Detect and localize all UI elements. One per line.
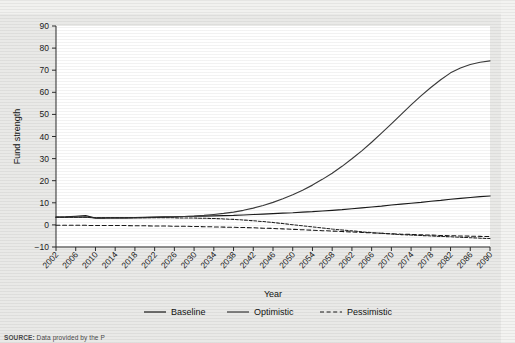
source-note: SOURCE: Data provided by the P	[4, 334, 105, 341]
y-axis-title: Fund strength	[12, 109, 22, 165]
y-tick-label: 80	[40, 43, 50, 53]
x-tick-label: 2086	[455, 249, 475, 270]
line-chart: −100102030405060708090 20022006201020142…	[0, 0, 515, 343]
y-axis-tick-labels: −100102030405060708090	[35, 21, 50, 252]
y-tick-label: 50	[40, 109, 50, 119]
chart-legend: BaselineOptimisticPessimistic	[144, 307, 393, 317]
legend-label-baseline: Baseline	[171, 307, 206, 317]
y-tick-label: 70	[40, 65, 50, 75]
x-tick-label: 2050	[277, 249, 297, 270]
x-tick-label: 2018	[119, 249, 139, 270]
y-tick-label: −10	[35, 242, 50, 252]
y-tick-label: 20	[40, 176, 50, 186]
figure-container: −100102030405060708090 20022006201020142…	[0, 0, 515, 343]
x-tick-label: 2090	[474, 249, 494, 270]
source-note-text: Data provided by the P	[37, 334, 105, 341]
x-tick-label: 2026	[159, 249, 179, 270]
source-note-prefix: SOURCE:	[4, 334, 35, 341]
x-tick-label: 2074	[395, 249, 415, 270]
y-tick-label: 0	[44, 220, 49, 230]
x-tick-label: 2054	[297, 249, 317, 270]
x-tick-label: 2038	[218, 249, 238, 270]
y-tick-label: 40	[40, 132, 50, 142]
x-tick-label: 2042	[238, 249, 258, 270]
y-tick-label: 60	[40, 87, 50, 97]
x-tick-label: 2070	[376, 249, 396, 270]
x-tick-label: 2066	[356, 249, 376, 270]
x-tick-label: 2002	[40, 249, 60, 270]
x-tick-label: 2030	[178, 249, 198, 270]
x-tick-label: 2046	[257, 249, 277, 270]
x-tick-label: 2078	[415, 249, 435, 270]
x-tick-label: 2014	[100, 249, 120, 270]
legend-label-pessimistic: Pessimistic	[347, 307, 393, 317]
x-tick-label: 2022	[139, 249, 159, 270]
y-tick-label: 30	[40, 154, 50, 164]
x-axis-title: Year	[264, 289, 282, 299]
legend-label-optimistic: Optimistic	[254, 307, 294, 317]
x-tick-label: 2010	[80, 249, 100, 270]
x-tick-label: 2006	[60, 249, 80, 270]
x-tick-label: 2062	[336, 249, 356, 270]
x-tick-label: 2082	[435, 249, 455, 270]
y-tick-label: 90	[40, 21, 50, 31]
x-axis-tick-labels: 2002200620102014201820222026203020342038…	[40, 249, 494, 270]
x-tick-label: 2058	[317, 249, 337, 270]
y-tick-label: 10	[40, 198, 50, 208]
x-tick-label: 2034	[198, 249, 218, 270]
